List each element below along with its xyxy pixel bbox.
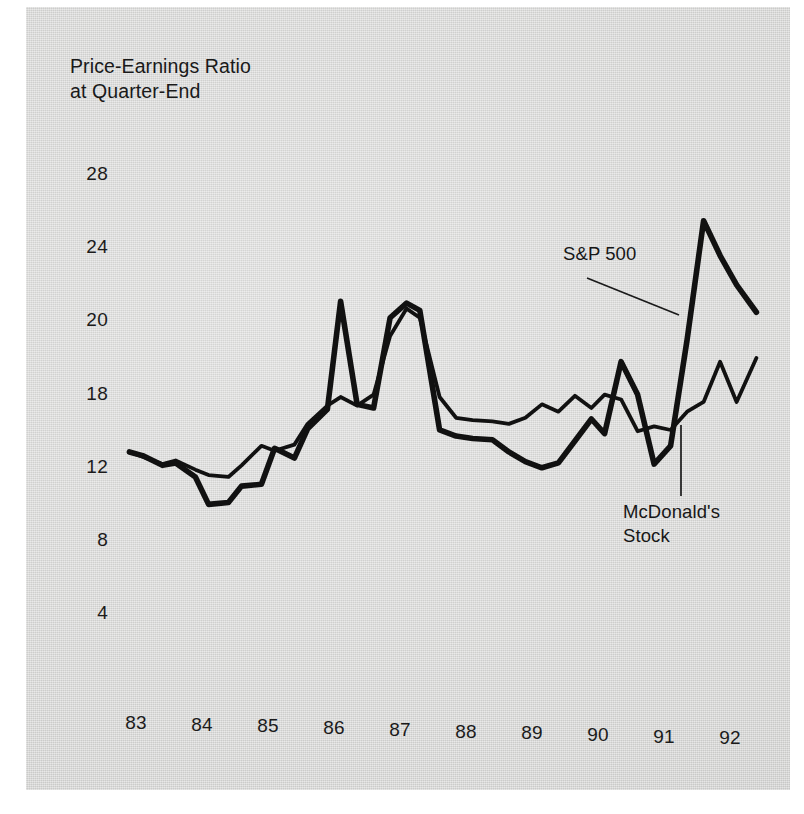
x-tick-label-92: 92 [707,727,753,749]
x-tick-label-91: 91 [641,726,687,748]
chart-figure: Price-Earnings Ratio at Quarter-End 2824… [0,0,804,814]
sp500-annotation-label: S&P 500 [563,242,636,266]
y-tick-label-12: 12 [62,456,108,478]
x-tick-label-87: 87 [377,719,423,741]
y-tick-label-8: 8 [62,529,108,551]
y-tick-label-4: 4 [62,602,108,624]
x-tick-label-83: 83 [113,712,159,734]
mcdonalds-annotation-label: McDonald's Stock [623,500,720,548]
x-tick-label-84: 84 [179,714,225,736]
y-tick-label-20: 20 [62,309,108,331]
x-tick-label-89: 89 [509,722,555,744]
x-tick-label-88: 88 [443,721,489,743]
x-tick-label-85: 85 [245,715,291,737]
y-tick-label-28: 28 [62,163,108,185]
y-tick-label-24: 24 [62,236,108,258]
x-tick-label-90: 90 [575,724,621,746]
y-tick-label-18: 18 [62,383,108,405]
chart-title: Price-Earnings Ratio at Quarter-End [70,54,251,104]
x-tick-label-86: 86 [311,717,357,739]
chart-panel [26,7,790,790]
